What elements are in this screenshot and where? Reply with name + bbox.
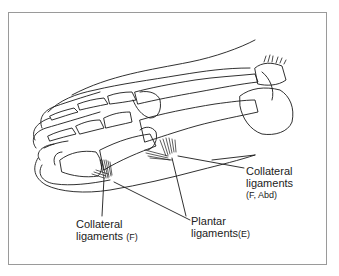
label-line: Plantar [191,215,250,227]
label-collateral-ligaments-f: Collateral ligaments (F) [76,218,138,243]
label-line: ligaments [246,177,293,189]
label-collateral-ligaments-f-abd: Collateral ligaments (F, Abd) [246,165,293,201]
label-line: ligaments (F) [76,230,138,243]
leader-plantar-2 [172,158,186,216]
great-toe-proximal-phalanx [60,151,102,177]
label-text: ligaments [191,227,238,239]
label-plantar-ligaments-e: Plantar ligaments(E) [191,215,250,240]
leader-plantar-1 [114,182,190,220]
skin-outline-bottom [35,155,255,192]
label-suffix: (E) [238,229,250,239]
label-suffix: (F) [126,232,138,242]
cuboid [240,88,293,135]
leader-collateral-f [102,178,104,216]
label-line: Collateral [76,218,138,230]
collateral-ligament-f-fibers [92,160,112,178]
label-line: ligaments(E) [191,227,250,240]
foot-anatomy-illustration [0,0,339,276]
bone-section-hatch [264,55,286,64]
label-line: Collateral [246,165,293,177]
label-text: ligaments [76,230,123,242]
lesser-toe-bones [50,108,78,120]
label-line: (F, Abd) [246,189,293,201]
